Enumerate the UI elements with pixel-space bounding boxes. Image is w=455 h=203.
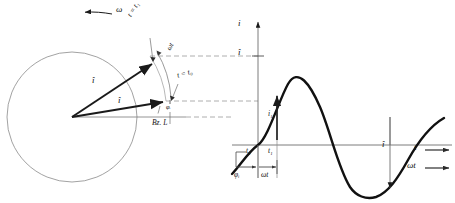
- phasor-vector-t1: [72, 64, 152, 117]
- reference-line-label: Bz. L: [152, 119, 167, 127]
- phasor-t0-magnitude-label: î: [118, 96, 121, 105]
- phase-angle-arc: [158, 106, 160, 114]
- instant-value-label: i₁: [268, 110, 273, 118]
- t0-leader-arrowhead: [170, 95, 175, 101]
- rotation-direction-label: ω: [116, 5, 122, 14]
- negative-peak-label: î: [382, 140, 385, 149]
- figure-svg: [0, 0, 455, 203]
- rotation-direction-arrow: [85, 12, 112, 14]
- phase-angle-label: φᵢ: [166, 104, 171, 111]
- t1-axis-label: t₁: [268, 147, 273, 155]
- t1-leader-arrowhead: [150, 57, 155, 62]
- peak-value-label: î: [238, 48, 241, 57]
- current-axis-label: i: [238, 19, 241, 28]
- phase-bracket-label: φᵢ: [234, 171, 239, 179]
- angle-axis-label: ωt: [407, 161, 416, 170]
- time-axis-label: t: [414, 143, 417, 152]
- figure-canvas: ω t = t₁ t = t₀ ωt φᵢ Bz. L î î i î i₁ î…: [0, 0, 455, 203]
- phasor-t1-magnitude-label: î: [92, 76, 95, 85]
- tip-construction-arc: [150, 56, 166, 101]
- omega-t-bracket-label: ωt: [261, 171, 268, 179]
- omega-t-arc: [157, 52, 171, 97]
- t0-axis-label: t₀: [246, 147, 251, 155]
- sine-curve: [232, 77, 444, 198]
